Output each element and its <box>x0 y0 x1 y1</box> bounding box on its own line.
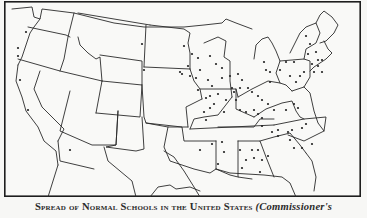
normal-school-dot <box>277 129 279 131</box>
normal-school-dot <box>261 125 263 127</box>
normal-school-dot <box>205 97 207 99</box>
normal-school-dot <box>239 109 241 111</box>
normal-school-dot <box>263 61 265 63</box>
normal-school-dot <box>239 149 241 151</box>
normal-school-dot <box>271 131 273 133</box>
normal-school-dot <box>207 79 209 81</box>
normal-school-dot <box>289 139 291 141</box>
normal-school-dot <box>211 85 213 87</box>
normal-school-dot <box>209 95 211 97</box>
normal-school-dot <box>183 45 185 47</box>
normal-school-dot <box>265 69 267 71</box>
normal-school-dot <box>291 129 293 131</box>
normal-school-dot <box>229 75 231 77</box>
normal-school-dot <box>287 131 289 133</box>
normal-school-dot <box>197 89 199 91</box>
normal-school-dot <box>217 163 219 165</box>
normal-school-dot <box>245 159 247 161</box>
normal-school-dot <box>69 149 71 151</box>
normal-school-dot <box>239 87 241 89</box>
normal-school-dot <box>25 31 27 33</box>
normal-school-dot <box>225 99 227 101</box>
normal-school-dot <box>223 111 225 113</box>
normal-school-dot <box>251 91 253 93</box>
normal-school-dot <box>251 149 253 151</box>
normal-school-dot <box>209 107 211 109</box>
normal-school-dot <box>141 43 143 45</box>
normal-school-dot <box>309 43 311 45</box>
normal-school-dot <box>259 171 261 173</box>
normal-school-dot <box>305 35 307 37</box>
normal-school-dot <box>231 87 233 89</box>
normal-school-dot <box>273 109 275 111</box>
normal-school-dot <box>245 111 247 113</box>
normal-school-dot <box>247 87 249 89</box>
map-figure <box>4 1 361 197</box>
normal-school-dot <box>195 77 197 79</box>
normal-school-dot <box>199 149 201 151</box>
normal-school-dot <box>267 103 269 105</box>
normal-school-dot <box>203 111 205 113</box>
normal-school-dot <box>257 149 259 151</box>
normal-school-dot <box>257 113 259 115</box>
normal-school-dot <box>187 65 189 67</box>
normal-school-dot <box>295 81 297 83</box>
normal-school-dot <box>321 59 323 61</box>
normal-school-dot <box>233 91 235 93</box>
normal-school-dot <box>17 55 19 57</box>
normal-school-dot <box>293 61 295 63</box>
normal-school-dot <box>307 53 309 55</box>
normal-school-dot <box>221 67 223 69</box>
normal-school-dot <box>181 73 183 75</box>
normal-school-dot <box>315 51 317 53</box>
normal-school-dot <box>191 53 193 55</box>
normal-school-dot <box>293 103 295 105</box>
normal-school-dot <box>197 57 199 59</box>
normal-school-dot <box>301 147 303 149</box>
normal-school-dot <box>261 159 263 161</box>
caption-title: Spread of Normal Schools in the United S… <box>35 201 253 212</box>
normal-school-dot <box>317 65 319 67</box>
normal-school-dot <box>241 79 243 81</box>
normal-school-dot <box>311 63 313 65</box>
normal-school-dot <box>211 143 213 145</box>
normal-school-dot <box>285 109 287 111</box>
normal-school-dot <box>261 99 263 101</box>
normal-school-dot <box>269 71 271 73</box>
normal-school-dot <box>303 71 305 73</box>
map-border <box>5 2 360 196</box>
normal-school-dot <box>321 71 323 73</box>
normal-school-dot <box>143 69 145 71</box>
normal-school-dot <box>179 71 181 73</box>
normal-school-dot <box>253 109 255 111</box>
normal-school-dot <box>19 79 21 81</box>
normal-school-dot <box>221 77 223 79</box>
normal-school-dot <box>213 103 215 105</box>
normal-school-dot <box>217 93 219 95</box>
normal-school-dot <box>269 81 271 83</box>
normal-school-dot <box>313 71 315 73</box>
normal-school-dot <box>317 59 319 61</box>
normal-school-dot <box>267 155 269 157</box>
normal-school-dot <box>261 117 263 119</box>
normal-school-dot <box>189 75 191 77</box>
normal-school-dot <box>209 55 211 57</box>
us-normal-schools-map <box>4 1 361 197</box>
normal-school-dot <box>293 147 295 149</box>
normal-school-dot <box>299 75 301 77</box>
normal-school-dot <box>311 143 313 145</box>
caption-source: (Commissioner's <box>256 201 333 212</box>
normal-school-dot <box>277 135 279 137</box>
normal-school-dot <box>305 123 307 125</box>
normal-school-dot <box>215 63 217 65</box>
normal-school-dot <box>301 127 303 129</box>
normal-school-dot <box>221 141 223 143</box>
normal-school-dot <box>289 75 291 77</box>
normal-school-dot <box>27 109 29 111</box>
normal-school-dot <box>257 95 259 97</box>
figure-caption: Spread of Normal Schools in the United S… <box>0 201 367 212</box>
normal-school-dot <box>17 47 19 49</box>
normal-school-dot <box>241 167 243 169</box>
normal-school-dot <box>205 119 207 121</box>
normal-school-dot <box>279 69 281 71</box>
